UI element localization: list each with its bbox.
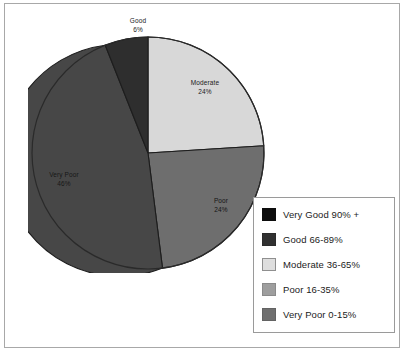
- pie-chart: [28, 33, 268, 273]
- pie-chart-screenshot: Good 6% Moderate 24% Poor 24% Very Poor …: [0, 0, 405, 354]
- pie-slice-poor: [148, 146, 264, 268]
- pie-chart-svg: [28, 33, 268, 273]
- legend-label-very-good: Very Good 90% +: [283, 209, 359, 220]
- legend-item-poor: Poor 16-35%: [262, 282, 340, 297]
- legend-item-very-good: Very Good 90% +: [262, 207, 359, 222]
- legend-item-very-poor: Very Poor 0-15%: [262, 307, 356, 322]
- legend-label-good: Good 66-89%: [283, 234, 343, 245]
- legend-item-good: Good 66-89%: [262, 232, 343, 247]
- legend-swatch-moderate-icon: [262, 258, 276, 271]
- chart-legend: Very Good 90% + Good 66-89% Moderate 36-…: [253, 197, 395, 333]
- legend-swatch-very-good-icon: [262, 208, 276, 221]
- legend-swatch-poor-icon: [262, 283, 276, 296]
- legend-item-moderate: Moderate 36-65%: [262, 257, 360, 272]
- legend-swatch-very-poor-icon: [262, 308, 276, 321]
- legend-label-moderate: Moderate 36-65%: [283, 259, 360, 270]
- legend-swatch-good-icon: [262, 233, 276, 246]
- legend-label-very-poor: Very Poor 0-15%: [283, 309, 356, 320]
- pie-slice-moderate: [148, 37, 264, 153]
- legend-label-poor: Poor 16-35%: [283, 284, 340, 295]
